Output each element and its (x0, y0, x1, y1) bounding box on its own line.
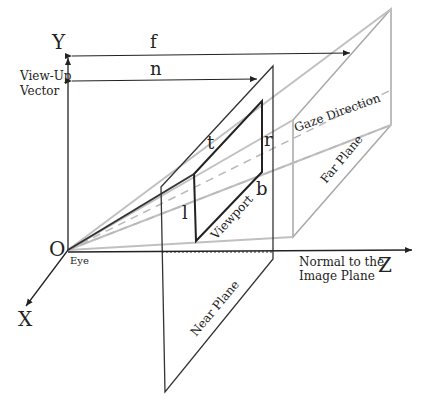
normal-label-line2: Image Plane (299, 269, 375, 283)
x-axis-label: X (18, 307, 33, 331)
t-label: t (207, 132, 215, 153)
viewport-label: Viewport (207, 192, 256, 243)
b-label: b (256, 178, 268, 199)
vector-label: Vector (19, 84, 59, 98)
frustum-diagram: Y Z X O View-Up Vector Eye f n t r l b V… (0, 0, 436, 412)
dimension-arrows (72, 53, 350, 81)
l-label: l (182, 202, 188, 223)
far-plane-label: Far Plane (318, 132, 366, 186)
y-axis-label: Y (51, 30, 66, 54)
r-label: r (264, 129, 273, 150)
f-arrow (72, 53, 350, 56)
origin-label: O (49, 237, 65, 261)
eye-label: Eye (70, 255, 89, 266)
n-arrow (72, 79, 257, 81)
normal-label-line1: Normal to the (299, 255, 384, 269)
eye-to-viewport-line (68, 174, 194, 250)
f-label: f (150, 31, 158, 52)
n-label: n (150, 58, 162, 79)
gaze-direction-label: Gaze Direction (292, 91, 382, 135)
view-up-label: View-Up (19, 69, 72, 83)
